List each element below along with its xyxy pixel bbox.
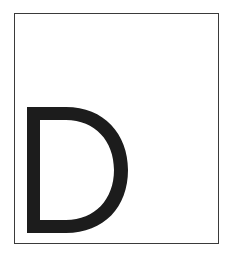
letter-d-glyph: [0, 0, 238, 256]
